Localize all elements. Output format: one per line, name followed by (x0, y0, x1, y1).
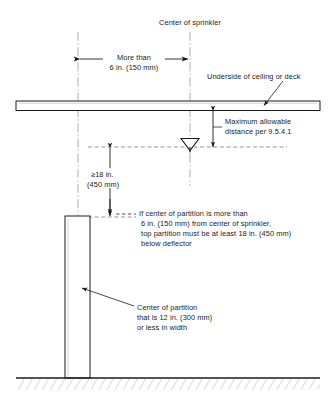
min-18in-label-line1: ≥18 in. (91, 170, 114, 179)
center-partition-label-line3: or less in width (137, 323, 187, 332)
max-distance-label-line1: Maximum allowable (225, 117, 291, 126)
underside-of-ceiling-label: Underside of ceiling or deck (207, 72, 300, 81)
center-partition-label-line1: Center of partition (137, 303, 197, 312)
center-of-sprinkler-label: Center of sprinkler (134, 18, 246, 27)
partition-note-leader (110, 199, 136, 214)
partition-note-line1: If center of partition is more than (139, 209, 248, 218)
floor-hatching (16, 378, 320, 390)
sprinkler-deflector-symbol (181, 139, 199, 153)
max-distance-label-line2: distance per 9.5.4.1 (225, 127, 292, 136)
partition-wall (65, 216, 90, 378)
partition-note-line4: below deflector (141, 239, 192, 248)
partition-note-line2: 6 in. (150 mm) from center of sprinkler, (141, 219, 271, 228)
center-partition-label-line2: that is 12 in. (300 mm) (137, 313, 212, 322)
max-distance-dimension (213, 111, 222, 147)
sprinkler-partition-diagram: Center of sprinkler More than 6 in. (150… (0, 0, 335, 399)
diagram-canvas (0, 0, 335, 399)
more-than-label-line2: 6 in. (150 mm) (93, 63, 175, 72)
ceiling-deck-band (16, 101, 320, 111)
min-18in-label-line2: (450 mm) (87, 180, 119, 189)
more-than-label-line1: More than (104, 53, 164, 62)
partition-note-line3: top partition must be at least 18 in. (4… (141, 229, 291, 238)
